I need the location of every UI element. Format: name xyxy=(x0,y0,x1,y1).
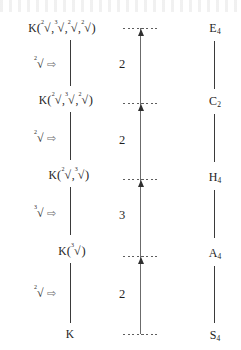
radical-index: 3 xyxy=(34,203,37,209)
field-label-level-4: K(2√,3√,2√,2√) xyxy=(28,21,96,36)
adjoin-arrow-icon: ⇨ xyxy=(47,207,56,220)
adjoin-arrow-icon: ⇨ xyxy=(47,132,56,145)
group-edge-2 xyxy=(214,190,215,238)
adjoin-step-4: 2√⇨ xyxy=(34,58,56,71)
group-letter: C xyxy=(209,94,217,108)
radical-index: 3 xyxy=(54,18,57,24)
radical-index: 2 xyxy=(34,283,37,289)
radical-glyph: 3√ xyxy=(66,94,75,106)
tower-edge-3 xyxy=(70,112,71,160)
radical-glyph: 2√ xyxy=(68,22,77,34)
group-edge-1 xyxy=(214,266,215,323)
radical-index: 3 xyxy=(71,241,74,247)
radical-glyph: 2√ xyxy=(52,94,61,106)
radical-glyph: 3√ xyxy=(72,245,81,257)
degree-arrowhead-bottom-mid xyxy=(138,257,144,264)
adjoin-arrow-icon: ⇨ xyxy=(47,58,56,71)
close-paren: ) xyxy=(91,21,95,35)
degree-bottom: 2 xyxy=(119,287,125,302)
radical-glyph: 2√ xyxy=(34,287,43,299)
group-subscript: 2 xyxy=(217,100,221,109)
radical-glyph: 2√ xyxy=(62,169,71,181)
field-label-level-3: K(2√,3√,2√) xyxy=(39,93,93,108)
degree-lower-mid: 3 xyxy=(119,208,125,223)
field-base: K xyxy=(39,94,48,106)
adjoin-arrow-icon: ⇨ xyxy=(47,287,56,300)
adjoin-step-2: 3√⇨ xyxy=(34,207,56,220)
tower-edge-1 xyxy=(70,263,71,323)
group-subscript: 4 xyxy=(217,27,221,36)
field-base: K xyxy=(58,245,67,257)
close-paren: ) xyxy=(81,244,85,258)
group-subscript: 4 xyxy=(217,334,221,343)
degree-arrowhead-upper-mid xyxy=(138,104,144,111)
degree-top: 2 xyxy=(119,57,125,72)
tower-edge-2 xyxy=(70,187,71,235)
radical-index: 3 xyxy=(65,90,68,96)
close-paren: ) xyxy=(89,93,93,107)
field-extension-tower-diagram: K(2√,3√,2√,2√) 2√⇨ K(2√,3√,2√) 2√⇨ K(2√,… xyxy=(0,0,241,350)
group-edge-3 xyxy=(214,114,215,162)
radical-glyph: 3√ xyxy=(75,169,84,181)
radical-index: 2 xyxy=(81,18,84,24)
radical-index: 2 xyxy=(61,165,64,171)
radical-glyph: 2√ xyxy=(79,94,88,106)
field-label-level-1: K(3√) xyxy=(58,244,86,259)
scan-artifact-band xyxy=(0,0,241,12)
group-e4: E4 xyxy=(209,21,220,36)
radical-index: 2 xyxy=(41,18,44,24)
field-base: K xyxy=(28,22,37,34)
radical-glyph: 2√ xyxy=(34,58,43,70)
degree-arrowhead-lower-mid xyxy=(138,180,144,187)
group-subscript: 4 xyxy=(218,252,222,261)
radical-index: 3 xyxy=(75,165,78,171)
group-letter: H xyxy=(209,170,218,184)
degree-arrowhead-top xyxy=(138,29,144,36)
field-label-level-2: K(2√,3√) xyxy=(49,168,90,183)
radical-index: 2 xyxy=(78,90,81,96)
close-paren: ) xyxy=(85,168,89,182)
group-h4: H4 xyxy=(209,170,222,185)
group-c2: C2 xyxy=(209,94,221,109)
tower-edge-4 xyxy=(70,40,71,86)
group-a4: A4 xyxy=(209,246,222,261)
radical-index: 2 xyxy=(52,90,55,96)
group-edge-4 xyxy=(214,41,215,89)
radical-glyph: 3√ xyxy=(55,22,64,34)
degree-tick-bottom xyxy=(123,334,159,335)
radical-index: 2 xyxy=(34,128,37,134)
group-s4: S4 xyxy=(210,328,221,343)
group-letter: E xyxy=(209,21,216,35)
radical-glyph: 3√ xyxy=(34,207,43,219)
group-subscript: 4 xyxy=(218,176,222,185)
adjoin-step-3: 2√⇨ xyxy=(34,132,56,145)
radical-index: 2 xyxy=(68,18,71,24)
field-base: K xyxy=(49,169,58,181)
radical-index: 2 xyxy=(34,54,37,60)
radical-glyph: 2√ xyxy=(42,22,51,34)
degree-upper-mid: 2 xyxy=(119,133,125,148)
group-letter: A xyxy=(209,246,218,260)
radical-glyph: 2√ xyxy=(34,132,43,144)
group-letter: S xyxy=(210,328,217,342)
radical-glyph: 2√ xyxy=(82,22,91,34)
field-base: K xyxy=(66,328,75,340)
field-label-level-0: K xyxy=(66,328,75,340)
adjoin-step-1: 2√⇨ xyxy=(34,287,56,300)
